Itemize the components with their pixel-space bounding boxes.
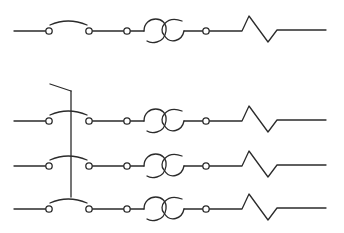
terminal-node: [124, 28, 130, 34]
switch-blade: [50, 111, 87, 115]
terminal-node: [203, 118, 209, 124]
terminal-node: [124, 163, 130, 169]
terminal-node: [86, 28, 92, 34]
terminal-node: [203, 206, 209, 212]
terminal-node: [86, 118, 92, 124]
switch-blade: [50, 156, 87, 160]
switch-blade: [50, 21, 87, 25]
load-zigzag: [209, 16, 326, 42]
terminal-node: [124, 206, 130, 212]
terminal-node: [203, 163, 209, 169]
gang-handle: [50, 84, 71, 91]
schematic-canvas: [0, 0, 344, 233]
fuse-arc-right: [162, 20, 184, 41]
fuse-arc-left: [144, 109, 166, 132]
load-zigzag: [209, 106, 326, 132]
load-zigzag: [209, 194, 326, 220]
fuse-arc-right: [162, 198, 184, 219]
terminal-node: [46, 206, 52, 212]
terminal-node: [203, 28, 209, 34]
fuse-arc-right: [162, 155, 184, 176]
terminal-node: [46, 28, 52, 34]
fuse-arc-left: [144, 19, 166, 42]
fuse-arc-left: [144, 197, 166, 220]
terminal-node: [46, 118, 52, 124]
fuse-arc-left: [144, 154, 166, 177]
terminal-node: [124, 118, 130, 124]
terminal-node: [46, 163, 52, 169]
fuse-arc-right: [162, 110, 184, 131]
terminal-node: [86, 163, 92, 169]
terminal-node: [86, 206, 92, 212]
switch-blade: [50, 199, 87, 203]
load-zigzag: [209, 151, 326, 177]
circuit-diagram: [0, 0, 344, 233]
